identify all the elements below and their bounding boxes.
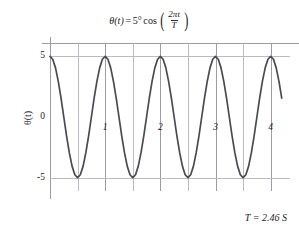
y-tick-label-0: 0 xyxy=(40,112,45,122)
title-equals: = xyxy=(125,15,131,26)
y-tick-label-5: 5 xyxy=(40,52,45,62)
title-equation: θ(t) = 5° cos ( 2πt T ) xyxy=(109,10,190,30)
title-cos: cos xyxy=(143,15,157,26)
title-fraction-numerator: 2πt xyxy=(167,10,181,19)
x-tick-label-1: 1 xyxy=(103,123,108,133)
y-tick-label-neg5: -5 xyxy=(37,173,45,183)
chart-title: θ(t) = 5° cos ( 2πt T ) xyxy=(0,10,299,30)
title-amplitude: 5° xyxy=(133,15,142,26)
y-axis-label: θ(t) xyxy=(22,110,33,124)
plot-area: 50-5 1234 t T xyxy=(50,43,290,191)
x-tick-label-2: 2 xyxy=(158,123,163,133)
cosine-curve xyxy=(50,43,290,191)
title-paren-open: ( xyxy=(160,10,164,30)
oscillation-chart-figure: θ(t) = 5° cos ( 2πt T ) θ(t) 50-5 1234 t xyxy=(0,0,299,235)
title-fraction: 2πt T xyxy=(167,10,181,29)
period-annotation-text: T = 2.46 S xyxy=(245,212,287,223)
title-theta-term: θ(t) xyxy=(109,15,124,26)
title-paren-close: ) xyxy=(184,10,188,30)
x-tick-label-3: 3 xyxy=(213,123,218,133)
period-annotation: T = 2.46 S xyxy=(245,212,287,223)
x-tick-label-4: 4 xyxy=(268,123,273,133)
title-fraction-denominator: T xyxy=(171,20,178,30)
